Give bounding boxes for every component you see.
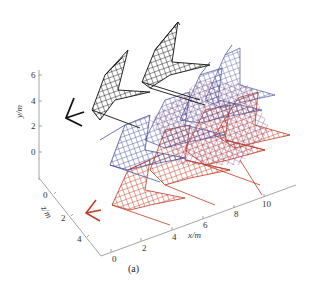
x-tick-0: 0 bbox=[112, 254, 117, 264]
y-tick-6: 6 bbox=[31, 70, 36, 80]
y-axis-label: y/m bbox=[14, 105, 24, 119]
y-tick-2: 2 bbox=[31, 121, 36, 131]
y-axis: 6 4 2 0 y/m bbox=[14, 70, 42, 180]
x-tick-4: 4 bbox=[172, 232, 177, 242]
figure-3d-wireframe: 6 4 2 0 y/m 0 2 4 z/m 0 2 4 6 8 10 x/m bbox=[0, 0, 314, 298]
z-tick-0: 0 bbox=[43, 190, 48, 200]
z-tick-2: 2 bbox=[61, 213, 66, 223]
y-tick-0: 0 bbox=[31, 147, 36, 157]
x-tick-2: 2 bbox=[142, 243, 147, 253]
x-axis-label: x/m bbox=[187, 230, 201, 240]
y-tick-4: 4 bbox=[31, 96, 36, 106]
x-tick-10: 10 bbox=[262, 199, 272, 209]
figure-caption: (a) bbox=[128, 263, 139, 275]
x-tick-8: 8 bbox=[234, 209, 239, 219]
z-tick-4: 4 bbox=[77, 234, 82, 244]
x-tick-6: 6 bbox=[203, 220, 208, 230]
z-axis-label: z/m bbox=[39, 203, 55, 220]
